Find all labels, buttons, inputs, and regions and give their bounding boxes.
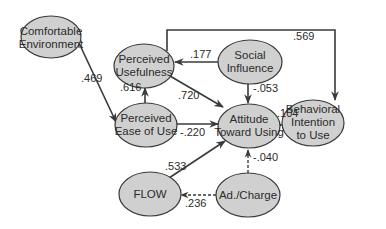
sem-diagram: Comfortable Environment Perceived Useful…: [0, 0, 386, 229]
coef-flow-to-att: .533: [165, 160, 186, 172]
coef-peou-to-att: -.220: [180, 126, 205, 138]
node-label: Perceived: [120, 112, 171, 124]
node-label: Ad./Charge: [219, 189, 277, 201]
node-social-influence: Social Influence: [218, 40, 282, 84]
coef-ad-to-flow: .236: [185, 197, 206, 209]
coef-ce-to-peou: .469: [81, 72, 102, 84]
node-label: Environment: [19, 38, 84, 50]
node-flow: FLOW: [119, 172, 181, 216]
node-label: Attitude: [230, 113, 269, 125]
coef-att-to-bi: .104: [277, 107, 298, 119]
node-label: FLOW: [133, 188, 166, 200]
node-label: Influence: [227, 62, 274, 74]
node-label: Comfortable: [20, 25, 83, 37]
node-label: Ease of Use: [115, 125, 178, 137]
node-label: Perceived: [118, 53, 169, 65]
coef-peou-to-pu: .616: [120, 81, 141, 93]
coef-si-to-att: -.053: [253, 82, 278, 94]
node-label: Toward Using: [214, 126, 284, 138]
node-perceived-ease-of-use: Perceived Ease of Use: [115, 103, 178, 147]
coef-si-to-pu: .177: [190, 48, 211, 60]
coef-ad-to-att: -.040: [253, 151, 278, 163]
node-label: to Use: [296, 129, 329, 141]
coef-pu-to-att: .720: [178, 89, 199, 101]
coef-pu-to-bi: .569: [293, 30, 314, 42]
node-label: Usefulness: [116, 66, 173, 78]
node-label: Social: [234, 49, 265, 61]
node-comfortable-environment: Comfortable Environment: [19, 16, 84, 58]
node-ad-charge: Ad./Charge: [216, 173, 280, 217]
